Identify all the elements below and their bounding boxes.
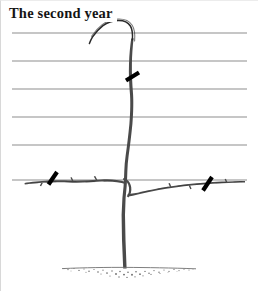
illustration-canvas [0, 0, 258, 291]
right-branch-texture [140, 182, 242, 193]
figure-root: The second year [0, 0, 258, 291]
figure-title: The second year [9, 5, 117, 22]
leader-growing-tip [89, 20, 132, 43]
right-lateral-branch [128, 181, 246, 197]
right-branch-spur-1 [168, 183, 171, 187]
prune-mark-leader [126, 73, 139, 81]
ground-group [62, 267, 196, 278]
prune-mark-left-branch [49, 172, 58, 185]
central-leader-trunk [122, 38, 134, 268]
left-branch-spur-3 [40, 183, 43, 187]
tree-group [25, 19, 246, 269]
soil-surface-line [62, 267, 196, 268]
soil-stipple [64, 268, 194, 278]
right-branch-spur-2 [189, 185, 192, 189]
